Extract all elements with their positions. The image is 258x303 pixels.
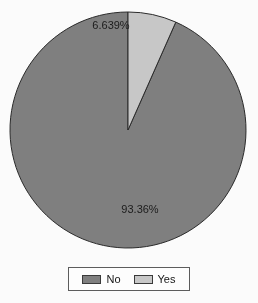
- legend-swatch-yes: [134, 275, 153, 284]
- pie-chart-figure: 93.36%6.639% No Yes: [0, 0, 258, 303]
- pie-chart-canvas: 93.36%6.639%: [0, 0, 258, 303]
- legend-item-no[interactable]: No: [82, 274, 120, 285]
- legend-label-yes: Yes: [158, 274, 176, 285]
- legend-label-no: No: [106, 274, 120, 285]
- pie-slice-label-no: 93.36%: [121, 203, 159, 215]
- legend-item-yes[interactable]: Yes: [134, 274, 176, 285]
- pie-slice-label-yes: 6.639%: [92, 19, 130, 31]
- legend-swatch-no: [82, 275, 101, 284]
- chart-legend: No Yes: [68, 267, 190, 291]
